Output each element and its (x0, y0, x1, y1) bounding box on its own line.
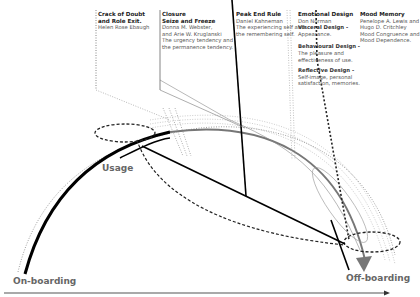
stage-label-offboarding: Off-boarding (346, 273, 410, 283)
note-line: satisfaction, memories. (298, 80, 360, 87)
note-line: the remembering self. (236, 31, 305, 38)
note-author: Helen Rose Ebaugh (98, 24, 149, 31)
note-line: Appearance. (298, 31, 360, 38)
note-section-head: Visceral Design - (298, 24, 360, 31)
note-title: Emotional Design (298, 11, 360, 18)
outer-dotted-arc (18, 127, 395, 272)
note-line: Don Norman (298, 18, 360, 25)
note-mood-memory: Mood Memory Penelope A. Lewis and Hugo D… (360, 11, 420, 44)
note-section-head: Behavioural Design - (298, 43, 360, 50)
offboarding-arrowhead-icon (356, 256, 372, 272)
note-closure: Closure Seize and Freeze Donna M. Webste… (162, 11, 233, 51)
note-line: the permanence tendency. (162, 44, 233, 51)
note-line: The urgency tendency and (162, 37, 233, 44)
note-title: Peak End Rule (236, 11, 305, 18)
note-line: effectiveness of use. (298, 57, 360, 64)
stage-label-onboarding: On-boarding (13, 276, 76, 286)
note-crack-of-doubt: Crack of Doubt and Role Exit. Helen Rose… (98, 11, 149, 31)
note-line: Daniel Kahneman (236, 18, 305, 25)
stage-label-usage: Usage (102, 163, 133, 173)
note-section-head: Reflective Design - (298, 67, 360, 74)
note-line: Mood Congruence and (360, 31, 420, 38)
note-line: The pleasure and (298, 50, 360, 57)
note-emotional-design: Emotional Design Don Norman Visceral Des… (298, 11, 360, 87)
note-title: Mood Memory (360, 11, 420, 18)
note-line: The experiencing self and (236, 24, 305, 31)
note-line: Self-image, personal (298, 74, 360, 81)
note-title: and Role Exit. (98, 18, 149, 25)
note-line: Hugo D. Critchley (360, 24, 420, 31)
usage-arc (25, 132, 170, 274)
note-title: Closure (162, 11, 233, 18)
note-line: Donna M. Webster, (162, 24, 233, 31)
timeline-arrowhead-icon (384, 291, 390, 296)
note-peak-end-rule: Peak End Rule Daniel Kahneman The experi… (236, 11, 305, 37)
note-title: Crack of Doubt (98, 11, 149, 18)
offboarding-arc (170, 130, 365, 260)
usage-ellipse (95, 124, 155, 142)
note-title: Seize and Freeze (162, 18, 233, 25)
note-line: and Arie W. Kruglanski (162, 31, 233, 38)
offboarding-ellipse (344, 232, 400, 252)
note-line: Penelope A. Lewis and (360, 18, 420, 25)
note-line: Mood Dependence. (360, 37, 420, 44)
